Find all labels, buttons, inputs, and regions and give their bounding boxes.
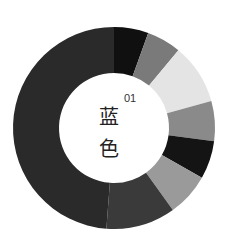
center-label-line1: 蓝 bbox=[99, 101, 119, 130]
center-number: 01 bbox=[124, 92, 136, 104]
center-label-line2: 色 bbox=[99, 133, 119, 162]
